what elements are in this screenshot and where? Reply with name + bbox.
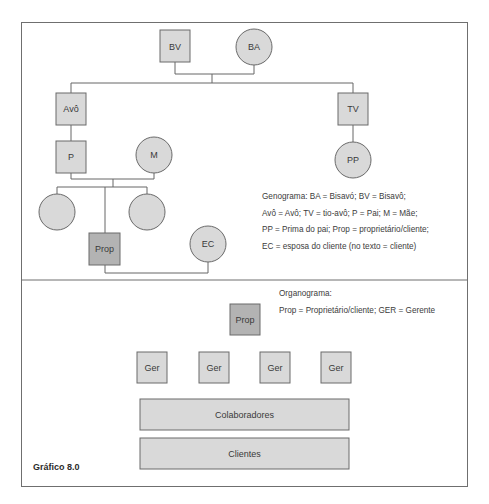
org-manager-3: Ger: [260, 352, 290, 383]
org-layer-colaboradores-label: Colaboradores: [215, 410, 275, 420]
node-bv: BV: [160, 30, 190, 62]
genogram-legend-line: Genograma: BA = Bisavó; BV = Bisavô;: [262, 189, 429, 206]
figure-caption: Gráfico 8.0: [33, 462, 80, 472]
organogram-legend-line: Prop = Proprietário/cliente; GER = Geren…: [279, 303, 435, 320]
org-manager-label: Ger: [328, 363, 343, 373]
node-prop: Prop: [89, 233, 120, 265]
node-p-label: P: [68, 152, 74, 162]
node-avo-label: Avô: [63, 104, 78, 114]
node-tv: TV: [338, 93, 368, 125]
node-ec-label: EC: [202, 239, 215, 249]
org-layer-clientes-label: Clientes: [228, 449, 261, 459]
org-manager-label: Ger: [267, 363, 282, 373]
genogram-legend-line: EC = esposa do cliente (no texto = clien…: [262, 239, 429, 256]
org-top-prop-label: Prop: [235, 315, 254, 325]
genogram-legend-line: Avô = Avô; TV = tio-avô; P = Pai; M = Mã…: [262, 206, 429, 223]
node-prop-label: Prop: [95, 244, 114, 254]
genogram-legend-line: PP = Prima do pai; Prop = proprietário/c…: [262, 222, 429, 239]
org-layer-colaboradores: Colaboradores: [140, 399, 349, 430]
node-ba-label: BA: [248, 42, 260, 52]
node-m: M: [136, 137, 172, 173]
node-p: P: [56, 141, 86, 173]
organogram-legend-line: Organograma:: [279, 286, 435, 303]
node-ba: BA: [236, 29, 272, 65]
org-manager-4: Ger: [321, 352, 351, 383]
org-layer-clientes: Clientes: [140, 438, 349, 469]
org-manager-label: Ger: [206, 363, 221, 373]
node-sibling-right: [129, 194, 165, 230]
genogram-legend: Genograma: BA = Bisavó; BV = Bisavô; Avô…: [262, 189, 429, 255]
node-ec: EC: [190, 226, 226, 262]
org-manager-1: Ger: [137, 352, 167, 383]
node-tv-label: TV: [347, 104, 359, 114]
node-pp: PP: [335, 142, 371, 178]
org-manager-label: Ger: [144, 363, 159, 373]
organogram-legend: Organograma: Prop = Proprietário/cliente…: [279, 286, 435, 319]
node-pp-label: PP: [347, 155, 359, 165]
org-manager-2: Ger: [199, 352, 229, 383]
node-bv-label: BV: [169, 42, 181, 52]
node-avo: Avô: [56, 93, 86, 125]
node-m-label: M: [150, 150, 158, 160]
node-sibling-left: [39, 194, 75, 230]
org-top-prop: Prop: [230, 304, 260, 335]
